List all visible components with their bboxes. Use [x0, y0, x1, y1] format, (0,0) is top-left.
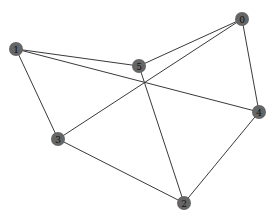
node-layer: 012345 — [9, 12, 266, 210]
edge-1-3 — [16, 49, 58, 139]
node-5: 5 — [132, 59, 146, 73]
node-2: 2 — [177, 196, 191, 210]
node-4: 4 — [252, 105, 266, 119]
node-1: 1 — [9, 42, 23, 56]
edge-1-4 — [16, 49, 259, 112]
edge-3-2 — [58, 139, 184, 203]
node-label: 1 — [13, 45, 19, 55]
node-label: 5 — [136, 62, 142, 72]
edge-0-5 — [139, 19, 242, 66]
edge-1-5 — [16, 49, 139, 66]
edge-0-4 — [242, 19, 259, 112]
node-label: 3 — [55, 135, 61, 145]
node-label: 2 — [181, 199, 187, 209]
edge-0-3 — [58, 19, 242, 139]
node-0: 0 — [235, 12, 249, 26]
node-label: 4 — [256, 108, 262, 118]
node-label: 0 — [239, 15, 245, 25]
edge-layer — [16, 19, 259, 203]
node-3: 3 — [51, 132, 65, 146]
network-graph: 012345 — [0, 0, 275, 222]
graph-canvas: 012345 — [0, 0, 275, 222]
edge-4-2 — [184, 112, 259, 203]
